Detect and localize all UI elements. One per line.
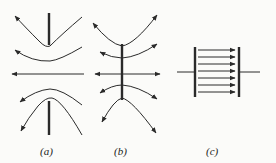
field-line bbox=[20, 89, 82, 105]
field-line bbox=[102, 98, 156, 133]
field-line bbox=[93, 15, 157, 46]
panel-c-label: (c) bbox=[206, 145, 218, 157]
panel-b-label: (b) bbox=[114, 145, 127, 157]
panel-b bbox=[93, 15, 160, 133]
figure-canvas: (a) (b) (c) bbox=[0, 0, 276, 163]
field-line bbox=[100, 44, 157, 58]
panel-a-label: (a) bbox=[40, 145, 53, 157]
field-line bbox=[21, 98, 82, 135]
panel-a bbox=[12, 13, 84, 135]
field-line bbox=[15, 47, 82, 61]
field-diagram bbox=[0, 0, 276, 163]
panel-c bbox=[177, 47, 260, 97]
field-line bbox=[100, 85, 157, 99]
